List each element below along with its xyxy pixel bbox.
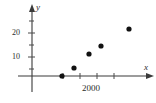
- data-point: [98, 43, 103, 48]
- x-axis-label: x: [144, 63, 148, 72]
- plot-area: 20 10 2000 y x: [0, 0, 156, 103]
- data-point: [59, 73, 64, 78]
- y-axis-arrow-icon: [29, 4, 35, 12]
- scatter-plot-figure: 20 10 2000 y x: [0, 0, 156, 103]
- y-tick-label-20: 20: [12, 29, 20, 37]
- x-tick-label-2000: 2000: [82, 84, 100, 93]
- y-tick-label-10: 10: [12, 53, 20, 61]
- y-axis-label: y: [36, 3, 40, 12]
- data-point: [126, 26, 131, 31]
- data-point: [86, 51, 91, 56]
- data-point: [71, 65, 76, 70]
- x-axis-arrow-icon: [146, 73, 154, 79]
- plot-canvas: [0, 0, 156, 103]
